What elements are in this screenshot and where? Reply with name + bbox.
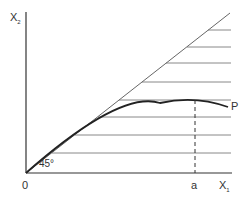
diagram-canvas: [0, 0, 252, 197]
x-axis-label: X1: [219, 180, 230, 193]
origin-label: 0: [22, 180, 28, 191]
hatch-lines: [52, 30, 231, 153]
angle-label: 45°: [39, 159, 54, 169]
y-axis-label: X2: [10, 12, 21, 25]
curve-label: P: [231, 101, 238, 112]
marker-label-a: a: [191, 180, 197, 191]
45-degree-line: [26, 13, 230, 173]
curve-p: [26, 100, 228, 173]
